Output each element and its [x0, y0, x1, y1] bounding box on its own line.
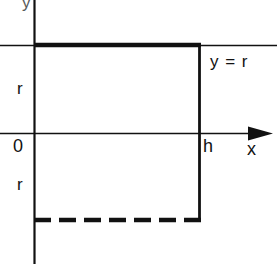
y-axis-label: y	[22, 0, 31, 11]
plot-canvas	[0, 0, 277, 264]
y-equals-r-annotation: y = r	[210, 53, 249, 70]
math-figure: y r 0 r h x y = r	[0, 0, 277, 264]
origin-label: 0	[13, 137, 23, 155]
y-tick-label-r-lower: r	[17, 176, 23, 193]
x-tick-label-h: h	[203, 137, 213, 155]
x-axis-label: x	[247, 140, 256, 158]
y-tick-label-r-upper: r	[17, 80, 23, 97]
